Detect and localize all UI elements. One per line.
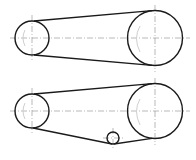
- belt-drive-with-idler-view: [10, 78, 190, 148]
- lower-belt-span-to-idler: [33, 128, 112, 144]
- large-pulley-shading: [137, 99, 141, 125]
- belt-drive-diagram: [0, 0, 196, 160]
- lower-belt-span-from-idler: [114, 138, 152, 144]
- large-pulley-shading: [137, 26, 141, 52]
- open-belt-drive-view: [10, 5, 190, 72]
